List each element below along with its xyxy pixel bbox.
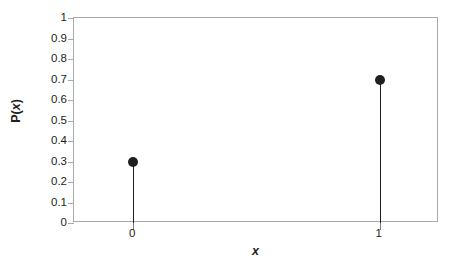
y-tick-label: 0.7 <box>26 73 67 85</box>
chart-figure: P(x) 00.10.20.30.40.50.60.70.80.91 01 x <box>0 0 456 268</box>
x-axis-title: x <box>73 244 438 258</box>
x-tick-label: 1 <box>359 226 399 240</box>
y-axis-title: P(x) <box>4 0 28 222</box>
y-tick-mark <box>68 203 74 204</box>
y-tick-label: 0.9 <box>26 32 67 44</box>
y-tick-label: 1 <box>26 11 67 23</box>
y-tick-label: 0.4 <box>26 134 67 146</box>
y-tick-mark <box>68 39 74 40</box>
y-tick-label: 0 <box>26 216 67 228</box>
y-tick-label: 0.8 <box>26 52 67 64</box>
y-tick-mark <box>68 182 74 183</box>
y-axis-tick-labels: 00.10.20.30.40.50.60.70.80.91 <box>26 17 67 222</box>
y-tick-mark <box>68 59 74 60</box>
stem-line <box>133 162 134 224</box>
y-tick-label: 0.2 <box>26 175 67 187</box>
y-tick-mark <box>68 141 74 142</box>
stem-line <box>380 80 381 224</box>
y-tick-mark <box>68 80 74 81</box>
y-axis-title-text: P(x) <box>9 99 23 123</box>
y-tick-mark <box>68 18 74 19</box>
data-point-marker <box>128 157 138 167</box>
y-tick-mark <box>68 121 74 122</box>
y-tick-mark <box>68 223 74 224</box>
y-axis-title-suffix: ) <box>9 99 23 103</box>
y-axis-title-variable: x <box>9 103 23 110</box>
x-tick-label: 0 <box>112 226 152 240</box>
y-tick-label: 0.3 <box>26 155 67 167</box>
y-tick-mark <box>68 100 74 101</box>
plot-area <box>73 17 438 222</box>
y-tick-mark <box>68 162 74 163</box>
y-tick-label: 0.6 <box>26 93 67 105</box>
y-tick-label: 0.5 <box>26 114 67 126</box>
data-point-marker <box>375 75 385 85</box>
y-tick-label: 0.1 <box>26 196 67 208</box>
x-axis-tick-labels: 01 <box>73 226 438 244</box>
y-axis-title-prefix: P( <box>9 110 23 123</box>
